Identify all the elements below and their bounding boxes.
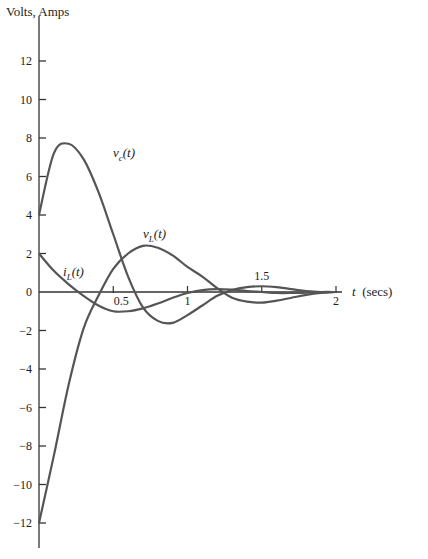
iL-arg: (t) — [72, 264, 84, 279]
series-label-vL: vL(t) — [143, 228, 166, 245]
y-tick-label: −2 — [0, 325, 32, 337]
x-tick-label: 1 — [176, 295, 200, 307]
y-tick-label: 6 — [0, 171, 32, 183]
x-tick-label: 1.5 — [250, 270, 274, 282]
y-tick-label: −4 — [0, 363, 32, 375]
y-tick-label: 0 — [0, 286, 32, 298]
y-tick-label: −12 — [0, 517, 32, 529]
x-tick-label: 0.5 — [109, 295, 133, 307]
vc-arg: (t) — [123, 145, 135, 160]
x-tick-label: 2 — [324, 295, 348, 307]
x-axis-variable: t — [352, 284, 356, 299]
vL-arg: (t) — [154, 226, 166, 241]
curves — [39, 143, 336, 523]
y-tick-label: 2 — [0, 248, 32, 260]
y-tick-label: −10 — [0, 479, 32, 491]
x-axis-title: t (secs) — [352, 286, 392, 298]
y-tick-label: −8 — [0, 440, 32, 452]
axes — [39, 16, 342, 548]
y-tick-label: 12 — [0, 55, 32, 67]
series-label-vc: vc(t) — [113, 147, 135, 164]
y-tick-label: −6 — [0, 402, 32, 414]
y-tick-label: 10 — [0, 94, 32, 106]
series-label-iL: iL(t) — [63, 266, 84, 283]
y-axis-title: Volts, Amps — [6, 6, 69, 18]
y-tick-label: 8 — [0, 132, 32, 144]
y-tick-label: 4 — [0, 209, 32, 221]
x-axis-unit: (secs) — [362, 284, 392, 299]
